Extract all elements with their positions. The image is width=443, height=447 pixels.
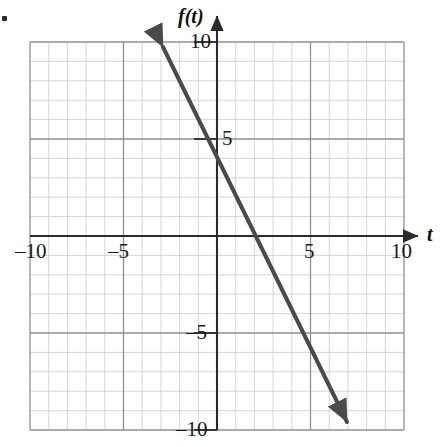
x-tick-label-10: 10: [391, 241, 412, 262]
coordinate-plane-svg: [0, 0, 443, 447]
graph-figure: f(t) t 10 5 –5 –10 –10 –5 5 10: [0, 0, 443, 447]
y-axis-label: f(t): [178, 6, 204, 26]
x-axis-label: t: [427, 224, 433, 244]
y-tick-label-5: 5: [222, 128, 233, 149]
x-tick-label-neg-10: –10: [15, 241, 47, 262]
x-tick-label-neg-5: –5: [108, 241, 129, 262]
x-tick-label-5: 5: [304, 241, 315, 262]
y-tick-label-neg-10: –10: [176, 419, 208, 440]
y-tick-label-10: 10: [190, 31, 211, 52]
function-line-f-of-t: [163, 47, 347, 422]
y-tick-label-neg-5: –5: [186, 322, 207, 343]
axis-lines: [30, 16, 418, 430]
